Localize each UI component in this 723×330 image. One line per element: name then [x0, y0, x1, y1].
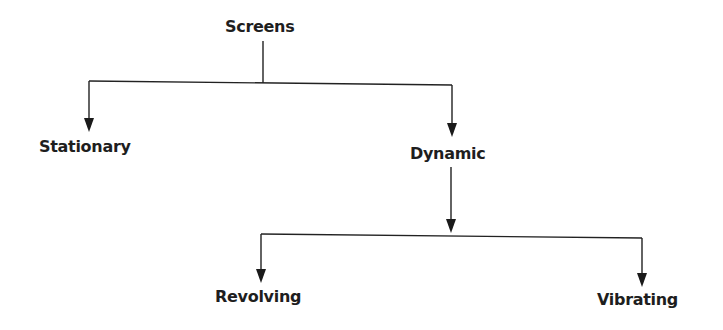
node-revolving: Revolving — [215, 289, 301, 305]
node-screens: Screens — [225, 19, 294, 35]
node-dynamic: Dynamic — [410, 146, 485, 162]
vibrating-arrowhead-icon — [637, 273, 647, 287]
level1-bar-line — [89, 81, 452, 85]
dynamic-stem-arrowhead-icon — [446, 219, 456, 233]
connector-lines — [0, 0, 723, 330]
revolving-arrowhead-icon — [256, 269, 266, 283]
node-stationary: Stationary — [39, 139, 131, 155]
classification-tree-diagram: Screens Stationary Dynamic Revolving Vib… — [0, 0, 723, 330]
node-vibrating: Vibrating — [597, 292, 678, 308]
dynamic-arrowhead-icon — [447, 123, 457, 137]
stationary-arrowhead-icon — [84, 118, 94, 132]
level2-bar-line — [261, 234, 642, 238]
